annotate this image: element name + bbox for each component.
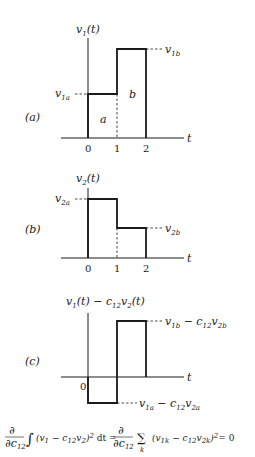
region-b-label: b xyxy=(129,88,136,101)
y-axis-label: v1(t) xyxy=(76,23,100,38)
tick-2: 2 xyxy=(143,143,149,154)
tick-1: 1 xyxy=(114,263,120,274)
region-a-label: a xyxy=(100,113,107,126)
partial-denominator-right: ∂c12 xyxy=(113,437,134,451)
x-axis-label: t xyxy=(187,132,192,145)
signal-difference xyxy=(88,321,146,403)
summand: (v1k − c12v2k)2= 0 xyxy=(152,432,235,445)
level-v2a-label: v2a xyxy=(55,192,70,207)
level-v2b-label: v2b xyxy=(165,222,181,237)
level-v1a-label: v1a xyxy=(55,87,70,102)
waveform-diagram: t v1(t) v1a v1b a b (a) 0 1 2 t v2(t) v2… xyxy=(0,0,255,457)
panel-c-tag: (c) xyxy=(25,355,40,368)
sum-index: k xyxy=(140,446,144,454)
panel-a-tag: (a) xyxy=(25,111,40,124)
panel-b: t v2(t) v2a v2b (b) 0 1 2 xyxy=(25,172,192,274)
signal-v1 xyxy=(88,49,146,138)
y-axis-label: v1(t) − c12v2(t) xyxy=(66,295,145,310)
x-axis-label: t xyxy=(187,371,192,384)
panel-c: t v1(t) − c12v2(t) v1b − c12v2b v1a − c1… xyxy=(25,295,227,412)
x-axis-label: t xyxy=(187,252,192,265)
partial-denominator-left: ∂c12 xyxy=(5,437,26,451)
level-v1b-label: v1b xyxy=(165,43,181,58)
tick-1: 1 xyxy=(114,143,120,154)
integrand: (v1 − c12v2)2 dt = xyxy=(36,432,117,445)
sum-sign: ∑ xyxy=(137,431,146,445)
partial-numerator-left: ∂ xyxy=(9,424,15,437)
panel-a: t v1(t) v1a v1b a b (a) 0 1 2 xyxy=(25,23,192,154)
tick-0: 0 xyxy=(85,263,91,274)
tick-2: 2 xyxy=(143,263,149,274)
partial-numerator-right: ∂ xyxy=(118,424,124,437)
tick-0: 0 xyxy=(85,143,91,154)
panel-b-tag: (b) xyxy=(25,223,41,236)
bottom-level-label: v1a − c12v2a xyxy=(139,397,200,412)
integral-sign: ∫ xyxy=(26,430,34,448)
top-level-label: v1b − c12v2b xyxy=(165,315,227,330)
equation: ∂ ∂c12 ∫ (v1 − c12v2)2 dt = ∂ ∂c12 ∑ k (… xyxy=(5,424,235,454)
y-axis-label: v2(t) xyxy=(76,172,100,187)
origin-label: 0 xyxy=(80,381,86,392)
